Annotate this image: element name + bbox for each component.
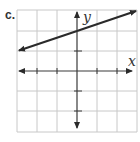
coordinate-plane: y x bbox=[0, 0, 140, 142]
x-axis-label: x bbox=[128, 53, 136, 69]
y-axis-label: y bbox=[82, 9, 92, 25]
